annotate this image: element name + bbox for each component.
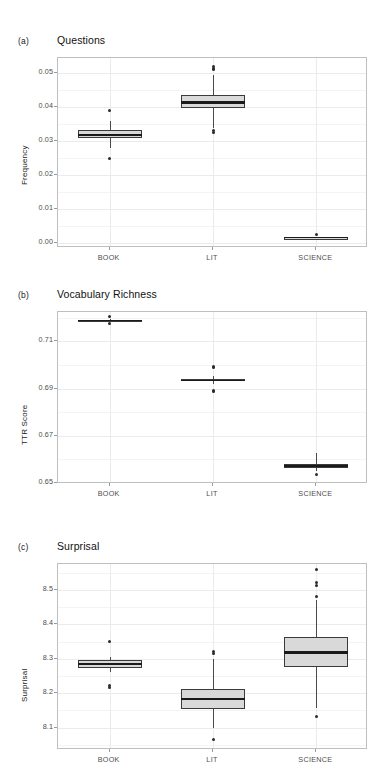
x-axis-tick-label-book: BOOK	[64, 253, 154, 262]
panel-a-plot-area	[57, 57, 367, 247]
gridline-major	[58, 73, 366, 74]
gridline-minor	[58, 158, 366, 159]
panel-b-plot-area	[57, 311, 367, 483]
panel-c-plot-area	[57, 563, 367, 749]
median-line	[78, 134, 142, 136]
gridline-minor	[58, 573, 366, 574]
gridline-major	[58, 728, 366, 729]
x-axis-tick-mark	[212, 483, 213, 486]
median-line	[284, 237, 348, 238]
x-axis-tick-label-book: BOOK	[64, 755, 154, 764]
gridline-minor	[58, 607, 366, 608]
gridline-major	[58, 209, 366, 210]
y-axis-tick-label: 0.02	[21, 169, 53, 178]
outlier-point	[212, 389, 215, 392]
x-axis-tick-mark	[212, 247, 213, 250]
outlier-point	[212, 738, 215, 741]
x-axis-tick-mark	[109, 749, 110, 752]
y-axis-tick-label: 0.71	[21, 335, 53, 344]
x-axis-tick-label-science: SCIENCE	[270, 253, 360, 262]
outlier-point	[315, 473, 318, 476]
median-line	[284, 651, 348, 653]
x-axis-tick-label-science: SCIENCE	[270, 489, 360, 498]
gridline-vertical	[110, 58, 111, 246]
y-axis-tick-mark	[54, 435, 57, 436]
y-axis-tick-label: 8.3	[21, 653, 53, 662]
panel-c-title: Surprisal	[57, 540, 99, 552]
panel-c-ylabel: Surprisal	[20, 669, 29, 702]
x-axis-tick-mark	[315, 749, 316, 752]
median-line	[284, 465, 348, 466]
x-axis-tick-mark	[315, 483, 316, 486]
y-axis-tick-mark	[54, 388, 57, 389]
gridline-major	[58, 341, 366, 342]
gridline-vertical	[316, 58, 317, 246]
panel-a-title: Questions	[57, 34, 105, 46]
x-axis-tick-mark	[212, 749, 213, 752]
y-axis-tick-mark	[54, 72, 57, 73]
y-axis-tick-mark	[54, 482, 57, 483]
x-axis-tick-label-book: BOOK	[64, 489, 154, 498]
gridline-minor	[58, 412, 366, 413]
median-line	[78, 320, 142, 321]
outlier-point	[315, 595, 318, 598]
y-axis-tick-mark	[54, 140, 57, 141]
y-axis-tick-label: 0.67	[21, 430, 53, 439]
median-line	[181, 101, 245, 103]
whisker	[316, 453, 317, 471]
x-axis-tick-label-lit: LIT	[167, 489, 257, 498]
y-axis-tick-mark	[54, 242, 57, 243]
panel-c: (c) Surprisal Surprisal 8.18.28.38.48.5B…	[0, 522, 388, 783]
gridline-minor	[58, 710, 366, 711]
panel-b-label: (b)	[18, 290, 29, 300]
y-axis-tick-label: 8.1	[21, 722, 53, 731]
gridline-major	[58, 243, 366, 244]
panel-b-ylabel: TTR Score	[20, 405, 29, 445]
median-line	[181, 380, 245, 381]
y-axis-tick-mark	[54, 692, 57, 693]
panel-b: (b) Vocabulary Richness TTR Score 0.650.…	[0, 270, 388, 522]
outlier-point	[212, 365, 215, 368]
gridline-minor	[58, 459, 366, 460]
x-axis-tick-label-lit: LIT	[167, 755, 257, 764]
gridline-minor	[58, 90, 366, 91]
outlier-point	[108, 322, 111, 325]
gridline-major	[58, 624, 366, 625]
y-axis-tick-mark	[54, 208, 57, 209]
gridline-vertical	[110, 564, 111, 748]
y-axis-tick-mark	[54, 658, 57, 659]
median-line	[78, 663, 142, 665]
y-axis-tick-mark	[54, 589, 57, 590]
x-axis-tick-label-science: SCIENCE	[270, 755, 360, 764]
panel-c-label: (c)	[18, 542, 29, 552]
outlier-point	[315, 715, 318, 718]
outlier-point	[315, 568, 318, 571]
gridline-major	[58, 436, 366, 437]
y-axis-tick-mark	[54, 340, 57, 341]
y-axis-tick-mark	[54, 727, 57, 728]
panel-a-ylabel: Frequency	[20, 145, 29, 185]
y-axis-tick-label: 8.5	[21, 584, 53, 593]
x-axis-tick-label-lit: LIT	[167, 253, 257, 262]
y-axis-tick-label: 0.04	[21, 101, 53, 110]
y-axis-tick-mark	[54, 174, 57, 175]
y-axis-tick-label: 0.05	[21, 67, 53, 76]
boxplot-figure: (a) Questions Frequency 0.000.010.020.03…	[0, 0, 388, 783]
gridline-minor	[58, 226, 366, 227]
y-axis-tick-mark	[54, 106, 57, 107]
gridline-minor	[58, 192, 366, 193]
gridline-minor	[58, 676, 366, 677]
y-axis-tick-label: 0.01	[21, 203, 53, 212]
y-axis-tick-label: 0.00	[21, 237, 53, 246]
y-axis-tick-label: 0.65	[21, 477, 53, 486]
median-line	[181, 698, 245, 700]
y-axis-tick-label: 0.69	[21, 383, 53, 392]
outlier-point	[315, 584, 318, 587]
gridline-major	[58, 141, 366, 142]
y-axis-tick-label: 0.03	[21, 135, 53, 144]
gridline-major	[58, 590, 366, 591]
outlier-point	[212, 652, 215, 655]
gridline-minor	[58, 745, 366, 746]
x-axis-tick-mark	[109, 483, 110, 486]
panel-a-label: (a)	[18, 36, 29, 46]
